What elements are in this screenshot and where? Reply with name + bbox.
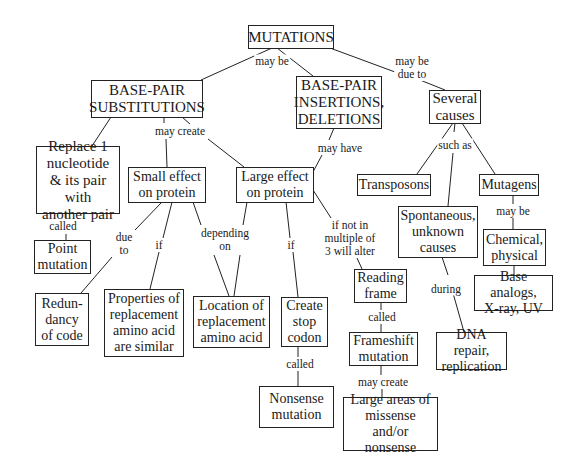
link-if-stop: if [286,239,295,252]
node-large-effect: Large effect on protein [236,167,314,203]
link-if-not-in-multiple: if not in multiple of 3 will alter [324,219,377,258]
node-nonsense-mutation: Nonsense mutation [259,386,334,428]
edge-mayhave-large [313,155,322,172]
edge-mutations-causes-2 [420,80,445,90]
link-may-create-large-areas: may create [357,376,409,389]
edge-ifnotin-reading [357,258,362,269]
link-may-have: may have [317,142,363,155]
edge-if-properties [150,252,159,289]
node-mutagens: Mutagens [479,174,539,196]
edge-small-depending [193,202,201,225]
edge-large-depending [243,202,247,225]
edge-if-stop [293,252,298,297]
link-due-to: due to [115,231,134,257]
link-may-be-chemical: may be [495,205,531,218]
node-redundancy: Redun- dancy of code [35,293,89,346]
node-spontaneous: Spontaneous, unknown causes [398,206,478,258]
node-frameshift-mutation: Frameshift mutation [349,332,418,366]
edge-causes-suchas [454,123,455,132]
link-may-be: may be [254,55,290,68]
node-create-stop-codon: Create stop codon [281,297,328,347]
node-reading-frame: Reading frame [354,269,407,303]
node-several-causes: Several causes [429,90,481,124]
edge-depending-location [214,255,229,296]
node-transposons: Transposons [357,174,431,196]
link-depending-on: depending on [200,227,250,253]
node-large-areas: Large areas of missense and/or nonsense [343,397,438,451]
edge-maycreate-small [166,139,167,167]
link-may-be-due-to: may be due to [394,55,430,81]
link-may-create: may create [154,125,206,138]
node-base-pair-insertions-deletions: BASE-PAIR INSERTIONS, DELETIONS [296,76,382,129]
node-small-effect: Small effect on protein [128,167,206,203]
edge-large-if [286,202,290,238]
link-such-as: such as [437,139,473,152]
edge-insertions-mayhave [329,128,334,140]
node-dna-repair: DNA repair, replication [436,332,507,370]
node-chemical-physical: Chemical, physical [483,229,546,266]
edge-small-dueto [135,202,162,230]
node-point-mutation: Point mutation [34,240,91,274]
edge-spontaneous-during [442,257,448,275]
node-replace-nucleotide: Replace 1 nucleotide & its pair with ano… [36,146,120,214]
node-mutations: MUTATIONS [248,25,334,49]
node-properties: Properties of replacement amino acid are… [104,289,184,357]
edge-maycreate-large [208,139,244,167]
link-called-point: called [48,220,77,233]
edge-large-ifnotin [313,190,331,218]
node-base-analogs: Base analogs, X-ray, UV [474,275,553,311]
link-if-properties: if [154,239,163,252]
edge-small-if [163,202,172,238]
link-called-frameshift: called [367,311,396,324]
edge-depending-location-2 [234,255,240,296]
edge-suchas-spontaneous [448,153,453,206]
edge-mutations-causes [330,48,395,72]
edge-substitutions-maycreate-b [182,117,190,124]
link-called-nonsense: called [285,358,314,371]
node-location: Location of replacement amino acid [193,296,270,348]
link-during: during [430,283,462,296]
node-base-pair-substitutions: BASE-PAIR SUBSTITUTIONS [91,80,203,118]
